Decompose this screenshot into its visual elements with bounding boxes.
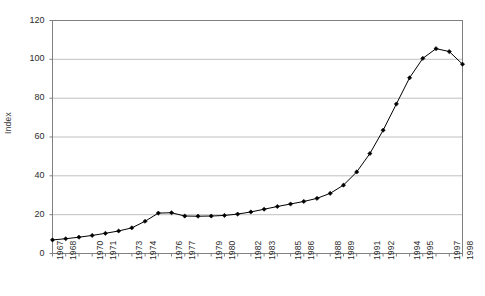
- data-point-marker: [394, 102, 398, 106]
- data-point-marker: [302, 199, 306, 203]
- x-tick-label: 1988: [334, 240, 343, 259]
- x-tick-label: 1992: [387, 240, 396, 259]
- data-point-marker: [117, 229, 121, 233]
- data-point-marker: [130, 226, 134, 230]
- data-point-marker: [275, 204, 279, 208]
- data-point-marker: [103, 231, 107, 235]
- x-tick-label: 1998: [466, 240, 475, 259]
- line-chart-figure: Index 020406080100120 196719681970197119…: [0, 0, 485, 296]
- x-tick-label: 1970: [96, 240, 105, 259]
- data-point-marker: [50, 238, 54, 242]
- x-tick-label: 1976: [175, 240, 184, 259]
- data-point-marker: [381, 128, 385, 132]
- x-tick-label: 1982: [254, 240, 263, 259]
- data-point-marker: [236, 212, 240, 216]
- data-point-marker: [169, 211, 173, 215]
- data-point-marker: [90, 233, 94, 237]
- x-tick-label: 1989: [347, 240, 356, 259]
- data-point-marker: [77, 235, 81, 239]
- x-tick-label: 1973: [135, 240, 144, 259]
- data-point-marker: [262, 207, 266, 211]
- data-point-marker: [249, 210, 253, 214]
- data-point-marker: [288, 202, 292, 206]
- data-series-markers: [50, 47, 464, 242]
- x-tick-label: 1967: [56, 240, 65, 259]
- x-tick-label: 1974: [149, 240, 158, 259]
- x-tick-label: 1968: [69, 240, 78, 259]
- x-tick-label: 1985: [294, 240, 303, 259]
- x-tick-label: 1980: [228, 240, 237, 259]
- data-point-marker: [315, 196, 319, 200]
- x-tick-label: 1979: [215, 240, 224, 259]
- x-tick-label: 1986: [307, 240, 316, 259]
- x-tick-label: 1995: [426, 240, 435, 259]
- data-point-marker: [222, 213, 226, 217]
- x-tick-label: 1977: [188, 240, 197, 259]
- x-tick-label: 1994: [413, 240, 422, 259]
- x-tick-label: 1983: [268, 240, 277, 259]
- x-tick-label: 1997: [453, 240, 462, 259]
- data-series-line: [53, 49, 463, 240]
- gridlines: [53, 59, 463, 214]
- x-tick-label: 1991: [373, 240, 382, 259]
- x-tick-label: 1971: [109, 240, 118, 259]
